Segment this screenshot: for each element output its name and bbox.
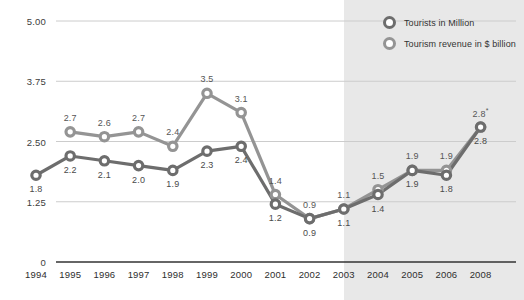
data-point-value-label: 2.4	[235, 155, 248, 165]
data-point-marker[interactable]	[100, 157, 108, 165]
data-point-value-label: 1.1	[337, 218, 350, 228]
data-point-value-label: 2.8	[474, 136, 487, 146]
data-point-value-label: 1.8	[440, 184, 453, 194]
data-point-value-label: 1.9	[440, 151, 453, 161]
x-axis-tick-label: 2000	[230, 269, 252, 280]
data-point-marker[interactable]	[237, 142, 245, 150]
data-point-marker[interactable]	[203, 147, 211, 155]
data-point-marker[interactable]	[169, 166, 177, 174]
data-point-value-label: 1.9	[406, 179, 419, 189]
ring-marker-dark-icon	[383, 16, 396, 29]
data-point-value-label: 0.9	[303, 200, 316, 210]
x-axis-tick-label: 1997	[128, 269, 150, 280]
y-axis-tick-label: 0	[2, 257, 46, 268]
data-point-value-label: 2.0	[132, 175, 145, 185]
data-point-value-label: 1.4	[269, 176, 282, 186]
legend-label-revenue: Tourism revenue in $ billion	[404, 39, 516, 49]
data-point-value-label: 2.1	[98, 170, 111, 180]
x-axis-tick-label: 2002	[299, 269, 321, 280]
x-axis-tick-label: 1996	[93, 269, 115, 280]
data-point-marker[interactable]	[169, 142, 177, 150]
y-axis-tick-label: 1.25	[2, 196, 46, 207]
data-point-value-label: 2.7	[64, 113, 77, 123]
data-point-marker[interactable]	[100, 132, 108, 140]
x-axis-tick-label: 2005	[401, 269, 423, 280]
data-point-value-label: 2.6	[98, 118, 111, 128]
x-axis-tick-label: 1994	[25, 269, 47, 280]
x-axis-tick-label: 1999	[196, 269, 218, 280]
y-axis-tick-label: 2.50	[2, 136, 46, 147]
data-point-value-label: 2.3	[200, 160, 213, 170]
x-axis-tick-label: 2004	[367, 269, 389, 280]
data-point-value-label: 1.8	[29, 184, 42, 194]
data-point-marker[interactable]	[271, 200, 279, 208]
x-axis-tick-label: 2008	[470, 269, 492, 280]
data-point-marker[interactable]	[134, 161, 142, 169]
data-point-value-label: 2.8*	[473, 107, 489, 119]
data-point-marker[interactable]	[442, 171, 450, 179]
data-point-marker[interactable]	[476, 123, 484, 131]
asterisk-annotation: *	[486, 107, 489, 114]
data-point-marker[interactable]	[66, 152, 74, 160]
y-axis-tick-label: 3.75	[2, 76, 46, 87]
data-point-value-label: 1.5	[371, 171, 384, 181]
data-point-marker[interactable]	[374, 190, 382, 198]
data-point-value-label: 2.4	[166, 127, 179, 137]
data-point-value-label: 0.9	[303, 228, 316, 238]
y-axis: 01.252.503.755.00	[0, 0, 46, 300]
data-point-value-label: 2.2	[64, 165, 77, 175]
x-axis-tick-label: 1998	[162, 269, 184, 280]
data-point-marker[interactable]	[66, 128, 74, 136]
data-point-marker[interactable]	[340, 205, 348, 213]
x-axis-tick-label: 1995	[59, 269, 81, 280]
data-point-value-label: 1.2	[269, 213, 282, 223]
data-point-value-label: 2.7	[132, 113, 145, 123]
chart-legend: Tourists in Million Tourism revenue in $…	[383, 12, 523, 54]
data-point-value-label: 3.1	[235, 94, 248, 104]
data-point-value-label: 1.4	[371, 204, 384, 214]
data-point-value-label: 1.9	[166, 179, 179, 189]
data-point-value-label: 1.1	[337, 190, 350, 200]
chart-container: 01.252.503.755.00 1994199519961997199819…	[0, 0, 524, 300]
x-axis-tick-label: 2001	[264, 269, 286, 280]
data-point-marker[interactable]	[203, 89, 211, 97]
x-axis-tick-label: 2003	[333, 269, 355, 280]
legend-label-tourists: Tourists in Million	[404, 18, 474, 28]
data-point-marker[interactable]	[305, 214, 313, 222]
data-point-marker[interactable]	[134, 128, 142, 136]
data-point-marker[interactable]	[237, 108, 245, 116]
legend-item-revenue[interactable]: Tourism revenue in $ billion	[383, 33, 523, 54]
y-axis-tick-label: 5.00	[2, 16, 46, 27]
data-point-marker[interactable]	[408, 166, 416, 174]
data-point-value-label: 3.5	[200, 74, 213, 84]
legend-item-tourists[interactable]: Tourists in Million	[383, 12, 523, 33]
ring-marker-light-icon	[383, 37, 396, 50]
x-axis-tick-label: 2006	[435, 269, 457, 280]
data-point-value-label: 1.9	[406, 151, 419, 161]
data-point-marker[interactable]	[271, 190, 279, 198]
